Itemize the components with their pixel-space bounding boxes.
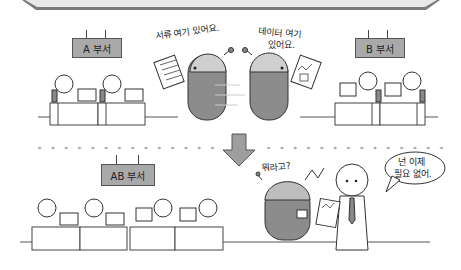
- robot-a: [154, 48, 245, 121]
- robot-b-speech-line2: 있어요.: [268, 40, 295, 51]
- divider-right: [262, 146, 447, 150]
- department-a-sign: A 부서: [72, 38, 122, 58]
- divider-left: [33, 146, 218, 150]
- person-speech-line1: 넌 이제: [398, 157, 425, 168]
- robot-surprised: [256, 168, 324, 240]
- department-b-sign: B 부서: [355, 38, 405, 58]
- department-ab-desks: [20, 199, 230, 250]
- person-manager: [316, 164, 368, 250]
- down-arrow: [223, 134, 255, 166]
- robot-b: [243, 48, 322, 121]
- department-ab-label: AB 부서: [111, 168, 146, 183]
- department-b-label: B 부서: [366, 41, 394, 56]
- person-speech-line2: 필요 없어.: [394, 169, 432, 180]
- department-a-desks: [50, 75, 145, 125]
- department-a-label: A 부서: [83, 41, 111, 56]
- department-b-desks: [335, 72, 425, 125]
- banner-fill: [25, 0, 437, 7]
- department-ab-sign: AB 부서: [101, 164, 155, 186]
